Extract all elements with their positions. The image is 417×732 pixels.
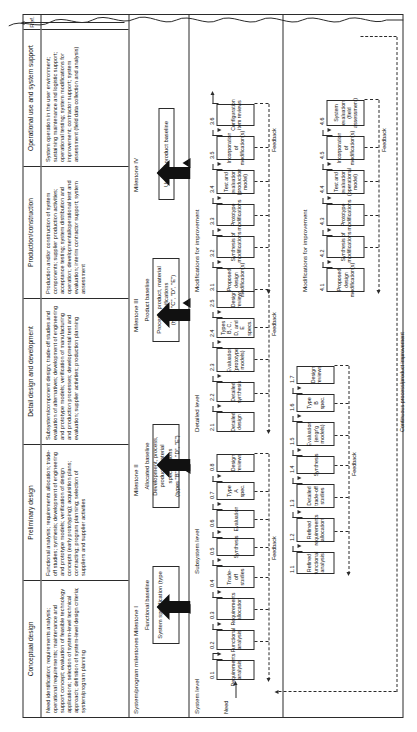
feedback-tick	[254, 247, 268, 248]
feedback-arrow	[346, 572, 350, 576]
feedback-line-mod3	[268, 104, 269, 292]
connector	[212, 230, 213, 236]
process-box-3-3-label: Prototype modifications	[229, 200, 242, 231]
process-box-0-1-label: Requirements analysis	[229, 654, 242, 687]
process-box-0-8: Design reviews	[216, 454, 254, 472]
process-box-3-6: Configuration item reviews	[216, 104, 254, 126]
process-num-1-3: 1.3	[288, 500, 294, 508]
ref-riser	[24, 22, 124, 23]
feedback-tick	[254, 577, 268, 578]
process-box-0-4-label: Trade-off studies	[225, 568, 244, 586]
connector-arrow	[217, 197, 221, 201]
feedback-tick	[254, 547, 268, 548]
process-num-3-1: 3.1	[208, 284, 214, 292]
process-box-4-5-label: Incorporation of modification(s)	[335, 131, 354, 165]
feedback-tick	[364, 215, 378, 216]
feedback-tick	[254, 519, 268, 520]
transition-arrow-to-operational-modifications	[156, 160, 190, 186]
process-box-2-4-label: Types B, C, D, and E specs.	[219, 320, 251, 336]
process-box-0-4: Trade-off studies	[216, 566, 254, 588]
feedback-tick	[364, 181, 378, 182]
continuous-improvement-label: Continuous process/product improvement	[398, 332, 404, 432]
connector	[292, 546, 293, 552]
connector	[212, 198, 213, 204]
process-num-0-8: 0.8	[208, 464, 214, 472]
connector-arrow	[217, 129, 221, 133]
continuous-improvement-line	[396, 37, 397, 692]
process-num-2-4: 2.4	[208, 330, 214, 338]
feedback-label-mod3: Feedback	[270, 128, 276, 152]
phase-header-label: Conceptual design	[26, 622, 33, 677]
figure-rotation-wrapper: Conceptual design Preliminary design Det…	[0, 0, 417, 732]
connector-arrow	[297, 415, 301, 419]
process-box-1-5-label: Evaluation (engr'g models)	[305, 422, 324, 447]
process-box-0-3: Requirements allocation	[216, 598, 254, 620]
process-box-3-1-label: Proposed design modification(s)	[225, 263, 244, 297]
feedback-tick	[334, 465, 348, 466]
feedback-tick	[254, 359, 268, 360]
connector	[292, 512, 293, 518]
connector-arrow	[297, 511, 301, 515]
process-num-4-4: 4.4	[318, 186, 324, 194]
level-title-modifications-operational: Modifications for improvement	[300, 209, 307, 292]
connector	[322, 164, 323, 170]
process-box-3-4: Test and evaluation (production model)	[216, 170, 254, 194]
connector	[322, 230, 323, 236]
phase-header-preliminary-design: Preliminary design	[23, 445, 40, 581]
transition-arrow-to-modifications	[156, 302, 190, 328]
milestone-1-baseline: Functional baseline	[143, 566, 150, 644]
feedback-line-detailed	[268, 290, 269, 432]
connector	[212, 342, 213, 348]
process-box-0-2: Functional analysis	[216, 630, 254, 650]
connector	[292, 388, 293, 394]
connector	[212, 565, 222, 566]
connector	[292, 416, 293, 422]
process-box-1-2: Refined requirements allocation	[296, 518, 334, 542]
milestone-4-label: Milestone IV	[131, 158, 138, 192]
feedback-tick	[254, 215, 268, 216]
connector-arrow	[327, 163, 331, 167]
feedback-line-mod4	[364, 99, 378, 100]
connector-arrow	[217, 311, 221, 315]
connector-arrow	[217, 375, 221, 379]
process-num-2-1: 2.1	[208, 424, 214, 432]
transition-arrow-to-subsystem	[156, 594, 190, 620]
milestone-2-baseline: Allocated baseline	[143, 424, 150, 508]
level-title-detailed-level: Detailed level	[192, 395, 199, 432]
process-box-4-2: Synthesis of modifications	[326, 236, 364, 258]
feedback-line-mod3	[254, 103, 268, 104]
phase-description-detail-design-and-development: Subsystem/component design; trade-off st…	[41, 299, 128, 445]
feedback-line-system	[254, 453, 268, 454]
feedback-line-subsystem	[334, 365, 348, 366]
connector	[292, 421, 302, 422]
connector	[212, 476, 213, 482]
process-num-2-5: 2.5	[208, 300, 214, 308]
process-box-4-6-label: System evaluation (field assessment)	[332, 98, 358, 128]
process-num-1-2: 1.2	[288, 534, 294, 542]
connector	[212, 347, 222, 348]
connector	[212, 629, 222, 630]
connector	[212, 560, 213, 566]
connector	[212, 537, 222, 538]
process-box-2-1: Detailed design	[216, 412, 254, 432]
process-box-0-7-label: Type A spec.	[225, 484, 244, 498]
feedback-tick	[254, 641, 268, 642]
milestone-1-label: Milestone I	[131, 606, 138, 636]
transition-arrow-to-detailed	[156, 452, 190, 478]
process-num-4-3: 4.3	[318, 218, 324, 226]
connector	[212, 262, 213, 268]
process-box-4-2-label: Synthesis of modifications	[339, 232, 352, 263]
connector-arrow	[217, 405, 221, 409]
process-num-4-6: 4.6	[318, 118, 324, 126]
process-box-3-2: Synthesis of modifications	[216, 236, 254, 258]
feedback-tick	[254, 147, 268, 148]
process-box-3-2-label: Synthesis of modifications	[229, 232, 242, 263]
connector-arrow	[327, 229, 331, 233]
phase-description-text: System operation in the user environment…	[44, 47, 78, 162]
phase-header-label: Operational use and system support	[26, 45, 33, 151]
process-num-0-7: 0.7	[208, 492, 214, 500]
process-box-1-4-label: Synthesis	[312, 454, 318, 477]
connector-arrow	[217, 341, 221, 345]
process-box-1-2-label: Refined requirements allocation	[305, 515, 324, 546]
connector	[212, 169, 222, 170]
